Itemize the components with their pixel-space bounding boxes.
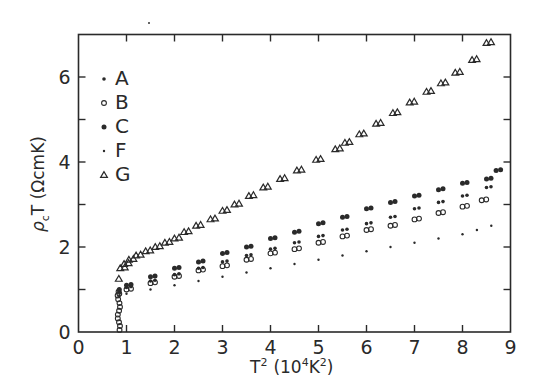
data-point [364,206,369,211]
data-point [269,267,271,269]
data-point [412,194,417,199]
data-point [345,214,350,219]
data-point [389,215,393,219]
y-title-rho: ρ [28,221,48,232]
x-tick-label: 8 [456,336,468,358]
data-point [221,260,225,264]
data-point [393,199,398,204]
data-point [461,233,463,235]
data-point [125,293,127,295]
legend-label: B [115,90,129,114]
data-point [221,276,223,278]
data-point [293,241,297,245]
x-tick-label: 1 [120,336,132,358]
x-title-T: T [249,357,261,377]
data-point [436,187,441,192]
legend-label: C [115,114,129,138]
data-point [297,229,302,234]
data-point [317,235,321,239]
data-point [153,273,158,278]
data-point [249,244,254,249]
x-title-units-sup: 4 [302,356,309,369]
data-point [245,254,249,258]
data-point [273,235,278,240]
data-point [269,247,273,251]
data-point [485,186,489,190]
chart-background [0,0,540,392]
y-tick-label: 0 [58,321,70,343]
data-point [417,193,422,198]
x-title-close: ) [327,357,334,377]
data-point [413,207,417,211]
y-tick-label: 4 [58,151,70,173]
data-point [321,234,325,238]
x-title-sup: 2 [260,356,267,369]
data-point [149,288,151,290]
data-point [437,237,439,239]
legend-label: G [115,162,131,186]
data-point [172,266,177,271]
data-point [441,186,446,191]
data-point [292,230,297,235]
legend-label: A [115,66,129,90]
data-point [365,250,367,252]
data-point [417,206,421,210]
data-point [316,221,321,226]
data-point [365,222,369,226]
data-point [490,225,492,227]
legend-marker-icon [102,125,107,130]
data-point [118,295,120,297]
data-point [441,200,445,204]
data-point [388,200,393,205]
x-tick-label: 2 [168,336,180,358]
data-point [345,227,349,231]
x-tick-label: 5 [312,336,324,358]
data-point [273,247,277,251]
scatter-chart: 01234567890246 ABCFG T2(104K2) ρcT (ΩcmK… [0,0,540,392]
x-tick-label: 6 [360,336,372,358]
data-point [489,185,493,189]
data-point [341,254,343,256]
data-point [129,282,134,287]
x-title-units-tail-sup: 2 [320,356,327,369]
y-tick-label: 6 [58,66,70,88]
data-point [244,245,249,250]
data-point [148,274,153,279]
y-title-rest: T (ΩcmK) [28,136,48,216]
data-point [321,220,326,225]
data-point [494,168,499,173]
data-point [201,259,206,264]
data-point [484,177,489,182]
data-point [177,265,182,270]
data-point [465,180,470,185]
data-point [460,181,465,186]
data-point [341,228,345,232]
data-point [413,242,415,244]
data-point [197,280,199,282]
data-point [196,259,201,264]
x-tick-label: 0 [72,336,84,358]
x-tick-label: 4 [264,336,276,358]
data-point [393,215,397,219]
data-point [465,193,469,197]
x-tick-label: 9 [504,336,516,358]
data-point [173,284,175,286]
data-point [220,251,225,256]
data-point [268,236,273,241]
x-tick-label: 3 [216,336,228,358]
data-point [249,253,253,257]
x-title-units: (10 [273,357,301,377]
data-point [476,229,478,231]
y-tick-label: 2 [58,236,70,258]
data-point [461,194,465,198]
data-point [245,271,247,273]
legend-label: F [115,138,127,162]
data-point [389,246,391,248]
data-point [124,283,129,288]
data-point [369,205,374,210]
data-point [225,259,229,263]
data-point [117,287,122,292]
speck [148,22,150,24]
data-point [317,259,319,261]
data-point [437,201,441,205]
